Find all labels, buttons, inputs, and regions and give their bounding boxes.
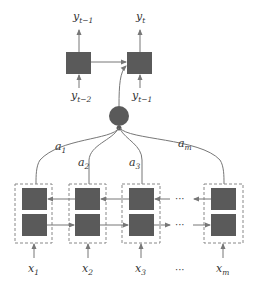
attention-curve-m — [120, 128, 224, 184]
encoder-input-label-m: xm — [216, 262, 229, 277]
encoder-backward-cell-m — [211, 188, 236, 210]
encoder-input-label-1: x1 — [28, 262, 39, 277]
encoder-backward-cell-2 — [75, 188, 100, 210]
decoder-output-label-2: yt — [135, 10, 146, 25]
encoder-input-label-2: x2 — [82, 262, 93, 277]
decoder-input-label-1: yt−2 — [70, 89, 92, 104]
encoder-input-label-3: x3 — [135, 262, 146, 277]
attention-weight-label-3: a3 — [129, 156, 141, 171]
attention-weight-label-1: a1 — [55, 140, 66, 155]
forward-ellipsis: ··· — [175, 219, 185, 230]
encoder-forward-cell-2 — [75, 214, 100, 236]
encoder-forward-cell-1 — [22, 214, 47, 236]
decoder-output-label-1: yt−1 — [72, 10, 93, 25]
attention-weight-label-m: am — [178, 137, 192, 152]
attention-weight-label-2: a2 — [78, 156, 90, 171]
attention-diagram: yt−1 yt yt−2 yt−1 a1 a2 a3 am — [0, 0, 254, 289]
input-ellipsis: ··· — [175, 264, 185, 275]
attention: a1 a2 a3 am — [36, 66, 224, 184]
attention-curve-2 — [89, 129, 118, 184]
encoder: ··· ··· x1 x2 x3 ··· xm — [15, 184, 243, 277]
encoder-backward-cell-3 — [129, 188, 154, 210]
encoder-forward-cell-m — [211, 214, 236, 236]
decoder-input-label-2: yt−1 — [131, 89, 152, 104]
decoder-cell-2 — [127, 52, 152, 74]
decoder-cell-1 — [66, 52, 91, 74]
context-arrow — [119, 66, 126, 106]
encoder-backward-cell-1 — [22, 188, 47, 210]
attention-node — [109, 106, 129, 126]
encoder-forward-cell-3 — [129, 214, 154, 236]
decoder: yt−1 yt yt−2 yt−1 — [66, 10, 152, 104]
backward-ellipsis: ··· — [175, 193, 185, 204]
